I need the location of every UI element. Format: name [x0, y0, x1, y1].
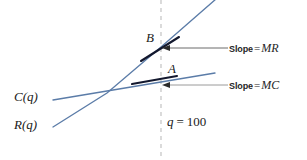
slope-word-mc: Slope — [229, 81, 253, 91]
revenue-curve-Rq — [53, 0, 216, 127]
quantity-value: 100 — [187, 114, 207, 129]
marginal-cost-symbol: MC — [261, 78, 279, 92]
quantity-reference-label: q=100 — [167, 115, 206, 128]
point-label-a: A — [168, 62, 176, 75]
quantity-equals: = — [174, 114, 187, 129]
point-label-b: B — [146, 31, 154, 44]
cost-curve-Cq — [53, 73, 215, 100]
slope-mr-label: Slope=MR — [229, 42, 279, 55]
slope-word-mr: Slope — [229, 44, 253, 54]
equals-sign-mr: = — [253, 42, 261, 54]
quantity-variable: q — [167, 114, 174, 129]
arrow-to-MR-tangent — [162, 45, 228, 51]
economics-diagram: C(q) R(q) B A q=100 Slope=MR Slope=MC — [0, 0, 307, 160]
equals-sign-mc: = — [253, 79, 261, 91]
cost-curve-label: C(q) — [14, 90, 38, 103]
marginal-revenue-symbol: MR — [261, 41, 278, 55]
revenue-curve-label: R(q) — [14, 118, 37, 131]
arrow-to-MC-tangent — [162, 82, 228, 88]
slope-mc-label: Slope=MC — [229, 79, 279, 92]
